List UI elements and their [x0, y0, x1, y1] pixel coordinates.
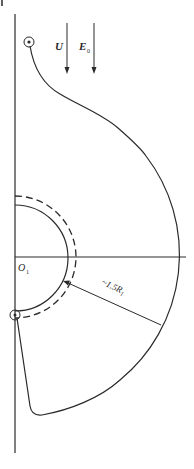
origin-label: O: [18, 262, 25, 273]
trajectory-diagram: U E 0 O 1 ~1.5R1: [0, 0, 194, 469]
velocity-arrow: [65, 23, 70, 74]
trajectory-curve: [17, 46, 179, 415]
origin-label-subscript: 1: [26, 269, 29, 275]
start-point-marker: [24, 37, 34, 47]
inner-surface-arc: [15, 205, 68, 311]
radius-label: ~1.5R1: [100, 277, 127, 297]
field-label: E: [78, 40, 86, 52]
field-arrow: [92, 23, 97, 74]
velocity-label: U: [55, 40, 64, 52]
field-label-subscript: 0: [87, 48, 90, 54]
